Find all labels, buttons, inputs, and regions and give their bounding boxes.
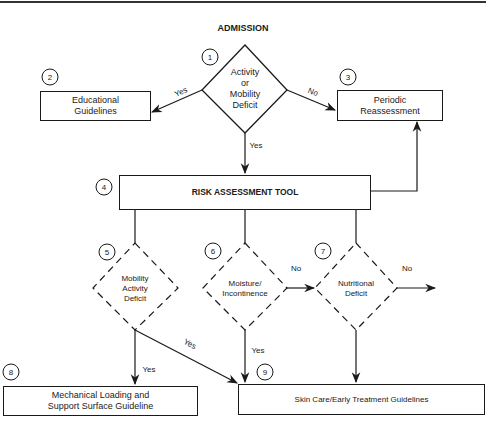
- node-6-number: 6: [205, 243, 222, 260]
- node-4-box: RISK ASSESSMENT TOOL: [119, 175, 371, 210]
- node-8-number: 8: [3, 364, 20, 381]
- node-3-line-2: Reassessment: [360, 106, 420, 117]
- edge-5-8-label: Yes: [142, 365, 155, 374]
- edge-7-out-label: No: [402, 264, 412, 273]
- node-1-line-2: or: [230, 78, 261, 89]
- node-6-label: Moisture/ Incontinence: [222, 279, 267, 299]
- node-5-line-1: Mobility: [121, 274, 148, 284]
- node-8-box: Mechanical Loading and Support Surface G…: [3, 386, 198, 416]
- node-1-number: 1: [202, 49, 219, 66]
- node-2-line-1: Educational: [72, 95, 119, 106]
- node-5-label: Mobility Activity Deficit: [121, 274, 148, 304]
- node-2-number: 2: [42, 69, 59, 86]
- node-5-line-2: Activity: [121, 284, 148, 294]
- node-9-number: 9: [257, 364, 274, 381]
- node-3-line-1: Periodic: [360, 95, 420, 106]
- node-1-label: Activity or Mobility Deficit: [230, 67, 261, 111]
- node-8-line-1: Mechanical Loading and: [48, 390, 154, 401]
- node-6-line-2: Incontinence: [222, 289, 267, 299]
- edge-6-9-label: Yes: [251, 346, 264, 355]
- node-3-box: Periodic Reassessment: [337, 90, 443, 121]
- node-2-box: Educational Guidelines: [40, 91, 151, 121]
- node-9-box: Skin Care/Early Treatment Guidelines: [238, 384, 485, 415]
- edge-4-to-3: [370, 122, 417, 191]
- node-7-line-1: Nutritional: [338, 279, 374, 289]
- node-4-number: 4: [96, 179, 113, 196]
- node-7-line-2: Deficit: [338, 289, 374, 299]
- edge-1-4-label: Yes: [249, 141, 262, 150]
- flowchart-canvas: [0, 0, 504, 435]
- node-1-line-3: Mobility: [230, 89, 261, 100]
- node-3-number: 3: [340, 69, 357, 86]
- node-2-line-2: Guidelines: [72, 106, 119, 117]
- node-6-line-1: Moisture/: [222, 279, 267, 289]
- node-7-number: 7: [315, 243, 332, 260]
- node-5-line-3: Deficit: [121, 294, 148, 304]
- node-1-line-4: Deficit: [230, 100, 261, 111]
- edge-6-7-label: No: [291, 264, 301, 273]
- node-8-line-2: Support Surface Guideline: [48, 401, 154, 412]
- node-1-line-1: Activity: [230, 67, 261, 78]
- node-7-label: Nutritional Deficit: [338, 279, 374, 299]
- page-title: ADMISSION: [217, 23, 268, 34]
- node-5-number: 5: [99, 244, 116, 261]
